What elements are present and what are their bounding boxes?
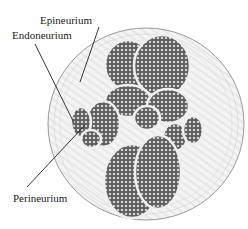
- fascicle: [134, 106, 160, 130]
- nerve-diagram: Epineurium Endoneurium Perineurium: [0, 0, 248, 229]
- epineurium-label: Epineurium: [40, 15, 92, 26]
- endoneurium-label: Endoneurium: [12, 30, 72, 41]
- perineurium-label: Perineurium: [13, 193, 67, 204]
- fascicle: [183, 116, 203, 144]
- fascicle: [135, 135, 181, 209]
- fascicle: [81, 130, 101, 148]
